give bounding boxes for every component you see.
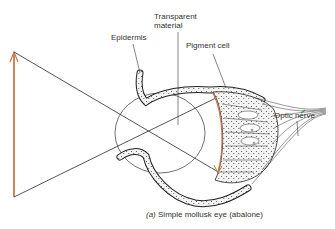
- figure-caption: (a) Simple mollusk eye (abalone): [146, 210, 263, 219]
- sensory-cells: [238, 111, 260, 145]
- caption-part-label: (a): [146, 210, 156, 219]
- eye-cup: [120, 73, 278, 204]
- light-rays: [14, 52, 220, 197]
- label-optic-nerve: Optic nerve: [274, 111, 315, 120]
- label-pigment-cell: Pigment cell: [186, 41, 230, 50]
- object-arrow: [10, 52, 18, 197]
- label-epidermis: Epidermis: [111, 33, 147, 42]
- leader-epidermis: [133, 44, 140, 73]
- leader-pigment-cell: [213, 54, 226, 88]
- label-transparent-line2: material: [154, 21, 197, 30]
- label-transparent-line1: Transparent: [154, 12, 197, 21]
- transparent-material: [115, 93, 205, 173]
- caption-text: Simple mollusk eye (abalone): [158, 210, 263, 219]
- label-transparent-material: Transparent material: [154, 12, 197, 30]
- ray-top-to-bottom: [14, 52, 220, 173]
